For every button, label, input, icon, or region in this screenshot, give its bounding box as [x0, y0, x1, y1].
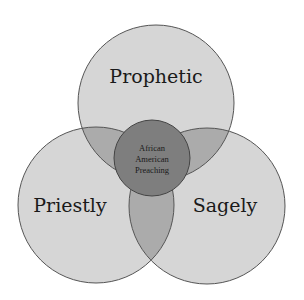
venn-diagram: Prophetic Priestly Sagely African Americ… [0, 0, 304, 300]
center-label-line-3: Preaching [135, 165, 170, 175]
center-label-line-1: African [139, 143, 166, 153]
label-sagely: Sagely [193, 194, 258, 216]
label-priestly: Priestly [33, 194, 107, 216]
label-prophetic: Prophetic [109, 65, 202, 87]
center-label-line-2: American [135, 154, 169, 164]
